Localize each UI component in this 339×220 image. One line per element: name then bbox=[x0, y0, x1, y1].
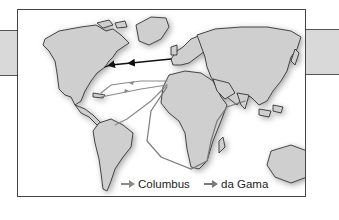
legend-label: John Cabot bbox=[138, 194, 197, 197]
route-vespucci bbox=[115, 85, 167, 125]
arrow-right-icon bbox=[204, 196, 218, 197]
world-map bbox=[18, 10, 306, 197]
central-america bbox=[75, 105, 101, 125]
legend-label: da Gama bbox=[221, 178, 268, 190]
greenland bbox=[136, 17, 169, 45]
legend-item-vespucci: Vespucci bbox=[204, 194, 267, 197]
arrow-right-icon bbox=[121, 180, 135, 188]
legend-item-columbus: Columbus bbox=[121, 178, 190, 190]
legend-item-john-cabot: John Cabot bbox=[121, 194, 197, 197]
arrow-right-icon bbox=[204, 180, 218, 188]
map-frame: Columbus da Gama John Cabot Vespucci bbox=[17, 9, 306, 197]
map-legend: Columbus da Gama John Cabot Vespucci bbox=[121, 178, 301, 197]
legend-label: Vespucci bbox=[221, 194, 267, 197]
legend-item-da-gama: da Gama bbox=[204, 178, 268, 190]
arrow-right-icon bbox=[121, 196, 135, 197]
route-john-cabot bbox=[105, 59, 171, 67]
legend-label: Columbus bbox=[138, 178, 190, 190]
right-tab-bar bbox=[306, 29, 339, 75]
left-tab-bar bbox=[0, 30, 17, 76]
